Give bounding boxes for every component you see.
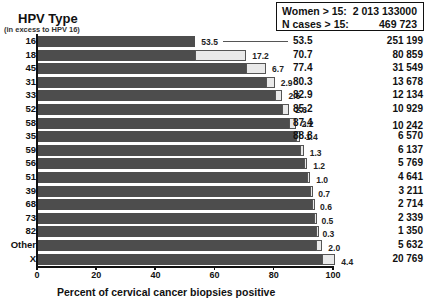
case-count: 13 678 — [392, 76, 423, 87]
cumulative-label: 82.9 — [293, 89, 312, 100]
bar-segment-cumulative — [37, 240, 316, 251]
bar-segment-cumulative — [37, 90, 275, 101]
bar-segment-increment — [195, 50, 246, 61]
y-tick-label: 82 — [25, 225, 36, 236]
case-count: 80 859 — [392, 49, 423, 60]
cumulative-label: 80.3 — [293, 76, 312, 87]
bar-segment-increment — [282, 104, 289, 115]
bar-segment-cumulative — [37, 131, 296, 142]
x-tick-label: 60 — [210, 270, 220, 280]
cumulative-label: 88.8 — [293, 130, 312, 141]
bar-segment-cumulative — [37, 104, 282, 115]
y-tick-label: 73 — [25, 212, 36, 223]
y-axis-line — [36, 34, 38, 266]
bar-58 — [37, 118, 296, 129]
bar-segment-cumulative — [37, 145, 300, 156]
case-count: 20 769 — [392, 253, 423, 264]
y-tick-label: 68 — [25, 198, 36, 209]
increment-label: 0.7 — [318, 189, 330, 199]
increment-label: 2.0 — [328, 243, 340, 253]
bar-segment-increment — [304, 158, 308, 169]
bar-segment-cumulative — [37, 77, 266, 88]
bar-73 — [37, 213, 316, 224]
cumulative-label: 77.4 — [293, 62, 312, 73]
increment-label: 1.3 — [310, 148, 322, 158]
increment-label: 1.2 — [313, 161, 325, 171]
increment-label: 17.2 — [252, 51, 269, 61]
bar-segment-cumulative — [37, 186, 310, 197]
y-tick-label: 16 — [25, 35, 36, 46]
bar-segment-cumulative — [37, 226, 316, 237]
bar-segment-increment — [316, 226, 319, 237]
case-count: 251 199 — [387, 35, 423, 46]
y-tick-label: 59 — [25, 144, 36, 155]
bar-segment-increment — [275, 90, 283, 101]
cumulative-label: 87.4 — [293, 117, 312, 128]
bar-56 — [37, 158, 307, 169]
case-count: 1 350 — [398, 225, 423, 236]
bar-segment-cumulative — [37, 158, 304, 169]
x-tick-label: 100 — [325, 270, 340, 280]
x-tick-label: 80 — [269, 270, 279, 280]
women-row: Women > 15: 2 013 133000 — [282, 5, 417, 18]
increment-label: 53.5 — [201, 37, 218, 47]
case-count: 5 632 — [398, 239, 423, 250]
bar-segment-increment — [246, 63, 266, 74]
cases-label: N cases > 15: — [282, 18, 349, 30]
x-axis-line — [36, 266, 334, 268]
bar-51 — [37, 172, 310, 183]
bar-45 — [37, 63, 266, 74]
cases-value: 469 723 — [379, 18, 417, 30]
increment-label: 0.3 — [322, 229, 334, 239]
bar-segment-increment — [312, 199, 315, 210]
increment-label: 4.4 — [341, 257, 353, 267]
x-tick-label: 0 — [34, 270, 39, 280]
x-tick-label: 20 — [91, 270, 101, 280]
cumulative-label: 70.7 — [293, 49, 312, 60]
case-count: 6 137 — [398, 144, 423, 155]
bar-segment-cumulative — [37, 213, 314, 224]
case-count: 31 549 — [392, 62, 423, 73]
bar-Other — [37, 240, 322, 251]
bar-18 — [37, 50, 246, 61]
bar-segment-cumulative — [37, 63, 246, 74]
case-count: 2 339 — [398, 212, 423, 223]
y-tick-label: 33 — [25, 89, 36, 100]
y-tick-label: 18 — [25, 49, 36, 60]
y-tick-label: 35 — [25, 130, 36, 141]
bar-segment-increment — [314, 213, 317, 224]
bar-segment-increment — [310, 186, 313, 197]
case-count: 10 929 — [392, 103, 423, 114]
bar-segment-increment — [300, 145, 304, 156]
women-label: Women > 15: — [282, 5, 347, 17]
bar-59 — [37, 145, 304, 156]
increment-label: 2.9 — [281, 78, 293, 88]
bar-16 — [37, 36, 195, 47]
case-count: 5 769 — [398, 157, 423, 168]
bar-segment-increment — [266, 77, 275, 88]
bar-39 — [37, 186, 312, 197]
case-count: 4 641 — [398, 171, 423, 182]
bar-82 — [37, 226, 316, 237]
case-count: 3 211 — [399, 185, 423, 196]
cumulative-label: 53.5 — [293, 35, 312, 46]
bar-31 — [37, 77, 275, 88]
case-count: 2 714 — [398, 198, 423, 209]
y-tick-label: 52 — [25, 103, 36, 114]
increment-label: 0.6 — [320, 202, 332, 212]
bar-35 — [37, 131, 300, 142]
increment-label: 1.0 — [316, 175, 328, 185]
y-tick-label: 58 — [25, 117, 36, 128]
case-count: 12 134 — [392, 89, 423, 100]
y-tick-label: 31 — [25, 76, 36, 87]
y-tick-label: 45 — [25, 62, 36, 73]
summary-box: Women > 15: 2 013 133000 N cases > 15: 4… — [276, 2, 424, 31]
y-tick-label: 39 — [25, 185, 36, 196]
case-count: 6 570 — [398, 130, 423, 141]
x-tick-label: 40 — [150, 270, 160, 280]
bar-52 — [37, 104, 289, 115]
bar-segment-increment — [316, 240, 322, 251]
y-tick-label: Other — [11, 239, 36, 250]
chart-subtitle: (in excess to HPV 16) — [4, 25, 80, 34]
leader-line — [223, 41, 288, 42]
